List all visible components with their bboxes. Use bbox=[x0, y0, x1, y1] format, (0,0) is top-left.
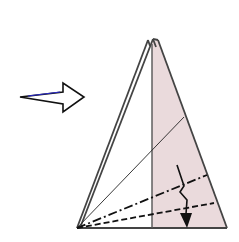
origami-diagram bbox=[0, 0, 239, 242]
direction-arrow-icon bbox=[20, 83, 84, 112]
